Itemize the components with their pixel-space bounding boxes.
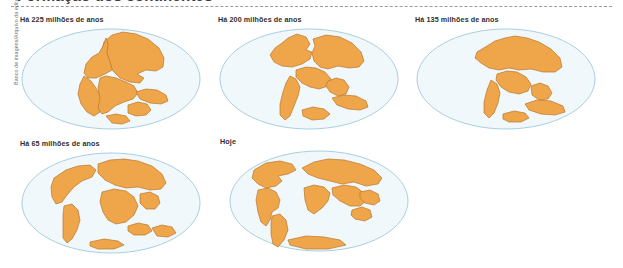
figure-continental-drift: Formação dos continentes Banco de imagen…: [0, 0, 623, 268]
map-globe-200: [218, 26, 400, 132]
map-globe-today: [228, 148, 410, 254]
panel-caption: Há 65 milhões de anos: [20, 139, 100, 148]
panel-caption: Há 225 milhões de anos: [20, 15, 104, 24]
bottom-margin: [0, 262, 623, 268]
page-title: Formação dos continentes: [17, 0, 213, 4]
panel-caption: Há 200 milhões de anos: [218, 15, 302, 24]
title-divider: [11, 6, 612, 7]
map-globe-225: [20, 26, 202, 132]
panel-caption: Há 135 milhões de anos: [415, 15, 499, 24]
map-globe-65: [20, 150, 202, 256]
map-globe-135: [415, 26, 597, 132]
image-credit: Banco de imagens/Arquivo da editora: [13, 0, 19, 99]
panel-caption: Hoje: [220, 137, 236, 146]
